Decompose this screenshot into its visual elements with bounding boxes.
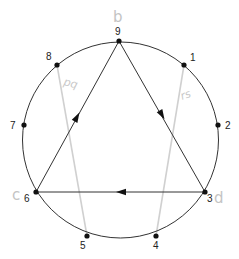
handwritten-label-c: c: [12, 186, 20, 204]
pencil-chords: [57, 65, 184, 236]
point-1: [181, 62, 186, 67]
point-2: [215, 122, 220, 127]
point-label-4: 4: [153, 240, 159, 251]
directed-edges: [36, 41, 205, 195]
handwritten-label-b: b: [113, 8, 123, 26]
point-4: [153, 233, 158, 238]
arrow-icon: [116, 189, 126, 195]
point-9: [116, 38, 121, 43]
point-label-9: 9: [115, 26, 121, 37]
arrow-icon: [157, 109, 165, 119]
pencil-chord-8-5: [57, 65, 87, 236]
point-label-6: 6: [24, 193, 30, 204]
handwritten-label-d: d: [214, 189, 224, 207]
point-label-1: 1: [190, 52, 196, 63]
handwritten-label-pq: pq: [61, 75, 79, 91]
point-8: [54, 62, 59, 67]
points: 123456789: [10, 26, 231, 251]
circle-diagram: 123456789 bpqrscd: [0, 0, 239, 259]
point-7: [21, 122, 26, 127]
point-label-8: 8: [46, 51, 52, 62]
point-label-3: 3: [207, 193, 213, 204]
point-label-2: 2: [225, 120, 231, 131]
circle: [23, 42, 219, 238]
point-5: [84, 233, 89, 238]
point-label-7: 7: [10, 120, 16, 131]
handwritten-label-rs: rs: [179, 87, 193, 103]
point-6: [33, 189, 38, 194]
point-label-5: 5: [80, 240, 86, 251]
arrow-icon: [72, 113, 80, 123]
